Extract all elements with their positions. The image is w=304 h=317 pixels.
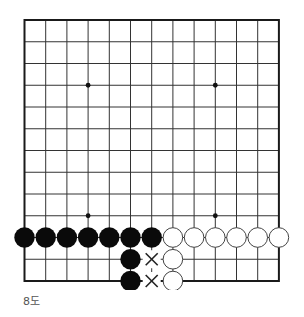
white-stone	[163, 249, 183, 269]
black-stone	[78, 227, 98, 247]
diagram-caption: 8도	[23, 292, 40, 308]
black-stone	[14, 227, 34, 247]
white-stone	[184, 228, 204, 248]
black-stone	[99, 227, 119, 247]
star-point-icon	[213, 83, 218, 88]
star-point-icon	[213, 213, 218, 218]
white-stone	[206, 228, 226, 248]
black-stone	[36, 227, 56, 247]
black-stone	[142, 227, 162, 247]
black-stone	[120, 271, 140, 290]
white-stone	[163, 228, 183, 248]
white-stone	[163, 271, 183, 290]
white-stone	[269, 228, 289, 248]
black-stone	[120, 227, 140, 247]
star-point-icon	[86, 213, 91, 218]
go-board	[0, 0, 304, 290]
star-point-icon	[86, 83, 91, 88]
black-stone	[120, 249, 140, 269]
white-stone	[227, 228, 247, 248]
white-stone	[248, 228, 268, 248]
black-stone	[57, 227, 77, 247]
